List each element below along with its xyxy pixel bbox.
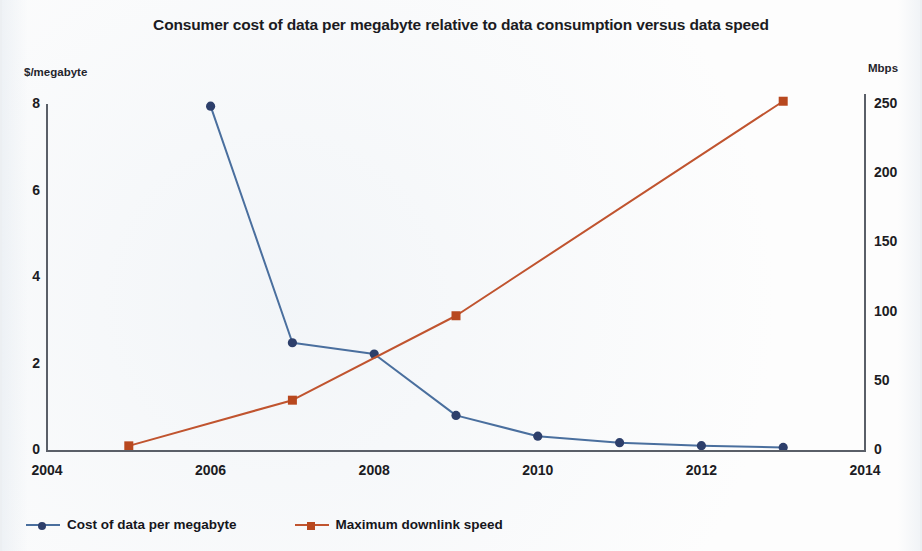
data-point-circle	[451, 411, 460, 420]
x-axis-tick: 2008	[339, 462, 409, 478]
chart-title: Consumer cost of data per megabyte relat…	[2, 16, 920, 34]
series-2	[124, 97, 787, 451]
y-axis-right-tick: 100	[874, 303, 920, 319]
data-point-square	[779, 97, 788, 106]
data-point-square	[288, 396, 297, 405]
x-axis-tick: 2004	[12, 462, 82, 478]
x-axis-tick: 2014	[830, 462, 900, 478]
x-axis-tick: 2010	[503, 462, 573, 478]
data-point-circle	[288, 338, 297, 347]
y-axis-right-tick: 150	[874, 233, 920, 249]
y-axis-right-tick: 250	[874, 95, 920, 111]
y-axis-left-tick: 8	[10, 95, 40, 111]
legend-item-label: Cost of data per megabyte	[67, 517, 237, 532]
data-point-circle	[206, 102, 215, 111]
chart-legend: Cost of data per megabyteMaximum downlin…	[26, 517, 503, 532]
y-axis-left-tick: 0	[10, 441, 40, 457]
y-axis-right-tick: 200	[874, 164, 920, 180]
data-point-circle	[533, 432, 542, 441]
plot-area	[47, 104, 865, 450]
legend-item[interactable]: Cost of data per megabyte	[26, 517, 237, 532]
right-axis-unit-label: Mbps	[868, 62, 898, 74]
data-point-square	[452, 311, 461, 320]
data-point-circle	[615, 438, 624, 447]
data-point-circle	[697, 441, 706, 450]
x-axis-line	[46, 450, 866, 452]
left-axis-unit-label: $/megabyte	[24, 66, 87, 78]
legend-circle-marker-icon	[26, 519, 60, 531]
y-axis-right-tick: 50	[874, 372, 920, 388]
y-axis-left-tick: 4	[10, 268, 40, 284]
y-axis-left-tick: 2	[10, 355, 40, 371]
y-axis-right-tick: 0	[874, 441, 920, 457]
legend-item[interactable]: Maximum downlink speed	[295, 517, 503, 532]
legend-item-label: Maximum downlink speed	[336, 517, 503, 532]
y-axis-left-tick: 6	[10, 182, 40, 198]
x-axis-tick: 2012	[666, 462, 736, 478]
y-axis-right-line	[864, 94, 866, 452]
y-axis-left-line	[46, 104, 48, 452]
legend-square-marker-icon	[295, 519, 329, 531]
x-axis-tick: 2006	[176, 462, 246, 478]
chart-page: Consumer cost of data per megabyte relat…	[0, 0, 922, 551]
data-point-square	[124, 441, 133, 450]
